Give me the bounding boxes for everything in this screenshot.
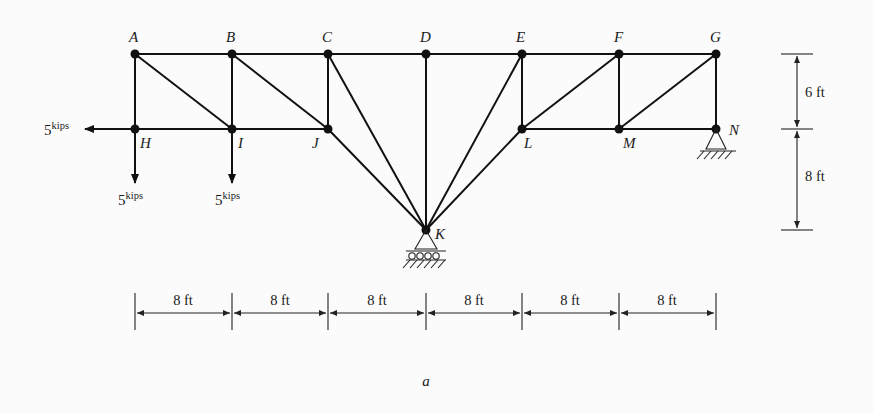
joint-A: [131, 50, 140, 59]
dim-span-6: 8 ft: [657, 292, 677, 308]
load-I-down-label: 5kips: [215, 190, 240, 208]
label-L: L: [523, 135, 532, 151]
figure-caption: a: [422, 373, 430, 389]
label-D: D: [419, 29, 431, 45]
member-AI: [135, 54, 232, 129]
member-BJ: [232, 54, 328, 129]
member-JK: [328, 129, 426, 230]
dim-8ft-label: 8 ft: [805, 168, 825, 184]
dim-span-2: 8 ft: [270, 292, 290, 308]
joint-F: [615, 50, 624, 59]
joint-B: [228, 50, 237, 59]
joint-L: [518, 125, 527, 134]
label-A: A: [128, 29, 139, 45]
joint-labels: A B C D E F G H I J K L M N: [128, 29, 740, 242]
member-MG: [619, 54, 716, 129]
label-N: N: [728, 122, 740, 138]
dim-span-1: 8 ft: [173, 292, 193, 308]
label-H: H: [139, 135, 152, 151]
label-E: E: [515, 29, 525, 45]
member-LK: [426, 129, 522, 230]
vertical-dimensions: 6 ft 8 ft: [781, 54, 844, 230]
load-H-left-label: 5kips: [44, 120, 69, 138]
dim-span-5: 8 ft: [560, 292, 580, 308]
horizontal-dimensions: 8 ft 8 ft 8 ft 8 ft 8 ft 8 ft: [135, 292, 716, 330]
label-K: K: [434, 226, 446, 242]
joint-G: [712, 50, 721, 59]
label-M: M: [622, 135, 637, 151]
label-C: C: [322, 29, 333, 45]
label-I: I: [237, 135, 244, 151]
loads: 5kips 5kips 5kips: [44, 120, 240, 208]
member-LF: [522, 54, 619, 129]
truss-diagram: A B C D E F G H I J K L M N 5kips 5kips …: [0, 0, 874, 413]
joint-E: [518, 50, 527, 59]
label-G: G: [710, 29, 721, 45]
joint-D: [422, 50, 431, 59]
joint-M: [615, 125, 624, 134]
load-H-down-label: 5kips: [118, 190, 143, 208]
dim-span-4: 8 ft: [464, 292, 484, 308]
member-CK: [328, 54, 426, 230]
label-J: J: [312, 135, 320, 151]
dim-span-3: 8 ft: [367, 292, 387, 308]
dim-6ft-label: 6 ft: [805, 84, 825, 100]
joint-J: [324, 125, 333, 134]
joint-C: [324, 50, 333, 59]
label-F: F: [613, 29, 624, 45]
label-B: B: [226, 29, 235, 45]
member-EK: [426, 54, 522, 230]
